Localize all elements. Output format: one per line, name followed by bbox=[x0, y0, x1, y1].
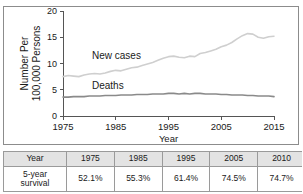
y-axis-tick-label: 0 bbox=[52, 111, 57, 121]
table-header-row: Year 1975 1985 1995 2005 2010 bbox=[4, 152, 303, 167]
table-row: 5-yearsurvival 52.1% 55.3% 61.4% 74.5% 7… bbox=[4, 167, 303, 192]
y-axis-tick-label: 5 bbox=[52, 85, 57, 95]
table-cell-survival-2005: 74.5% bbox=[210, 167, 258, 192]
table-header-cell-2005: 2005 bbox=[210, 152, 258, 167]
table-header-cell-1995: 1995 bbox=[162, 152, 210, 167]
y-axis-title-line2: 100,000 Persons bbox=[31, 26, 42, 102]
line-chart: 0510152019751985199520052015YearNumber P… bbox=[4, 7, 298, 144]
series-line-deaths bbox=[63, 93, 274, 97]
table-cell-survival-1975: 52.1% bbox=[67, 167, 115, 192]
y-axis-tick-label: 20 bbox=[47, 7, 57, 16]
table-header: Year 1975 1985 1995 2005 2010 bbox=[4, 152, 303, 167]
table-row-label: 5-yearsurvival bbox=[4, 167, 67, 192]
table-cell-survival-2010: 74.7% bbox=[258, 167, 302, 192]
annotation-new-cases: New cases bbox=[92, 50, 141, 61]
table-cell-survival-1985: 55.3% bbox=[114, 167, 162, 192]
x-axis-title: Year bbox=[159, 133, 178, 144]
y-axis-tick-label: 10 bbox=[47, 59, 57, 69]
x-axis-tick-label: 2005 bbox=[211, 121, 232, 132]
table-header-cell-2010: 2010 bbox=[258, 152, 302, 167]
table-body: 5-yearsurvival 52.1% 55.3% 61.4% 74.5% 7… bbox=[4, 167, 303, 192]
table-header-cell-1985: 1985 bbox=[114, 152, 162, 167]
y-axis-title-line1: Number Per bbox=[19, 36, 30, 91]
table-row-label-line2: survival bbox=[21, 178, 50, 188]
x-axis-tick-label: 2015 bbox=[263, 121, 284, 132]
x-axis-tick-label: 1995 bbox=[158, 121, 179, 132]
x-axis-tick-label: 1985 bbox=[105, 121, 126, 132]
survival-table: Year 1975 1985 1995 2005 2010 5-yearsurv… bbox=[3, 151, 302, 192]
x-axis-tick-label: 1975 bbox=[52, 121, 73, 132]
table-header-cell-1975: 1975 bbox=[67, 152, 115, 167]
chart-panel: 0510152019751985199520052015YearNumber P… bbox=[3, 6, 299, 145]
table-header-cell-year: Year bbox=[4, 152, 67, 167]
y-axis-tick-label: 15 bbox=[47, 32, 57, 42]
table-cell-survival-1995: 61.4% bbox=[162, 167, 210, 192]
figure-container: 0510152019751985199520052015YearNumber P… bbox=[0, 0, 302, 194]
annotation-deaths: Deaths bbox=[92, 80, 124, 91]
